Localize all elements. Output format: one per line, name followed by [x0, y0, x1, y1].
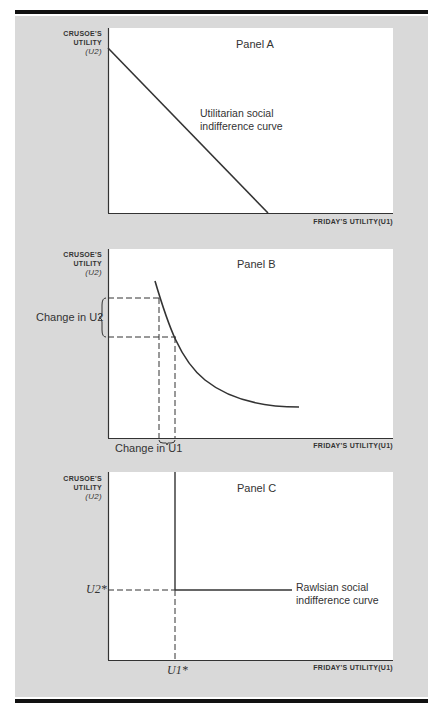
diagram-lines	[0, 0, 436, 712]
